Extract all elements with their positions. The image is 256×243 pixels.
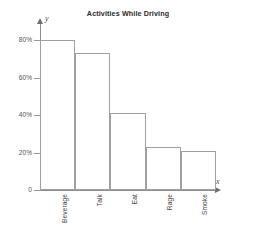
bar: [146, 147, 181, 190]
x-axis-category-label: Talk: [96, 194, 103, 206]
plot-area: [40, 22, 216, 190]
bar: [40, 40, 75, 190]
y-axis-tick-label: 0: [4, 186, 32, 193]
y-axis-tick-label: 40%: [4, 111, 32, 118]
chart-title: Activities While Driving: [0, 9, 256, 18]
x-axis-category-label: Rage: [166, 194, 173, 210]
bar-chart: Activities While Driving y x 020%40%60%8…: [0, 0, 256, 243]
x-axis-category-label: Eat: [131, 194, 138, 204]
y-axis-tick-label: 60%: [4, 74, 32, 81]
bar: [181, 151, 216, 190]
bar: [75, 53, 110, 190]
x-axis-line: [40, 190, 216, 191]
y-axis-tick: [34, 190, 41, 191]
y-axis-tick-label: 20%: [4, 149, 32, 156]
x-axis-category-label: Smoke: [201, 194, 208, 215]
bar: [110, 113, 145, 190]
x-axis-label: x: [216, 177, 220, 186]
y-axis-tick-label: 80%: [4, 36, 32, 43]
x-axis-category-label: Beverage: [61, 194, 68, 223]
